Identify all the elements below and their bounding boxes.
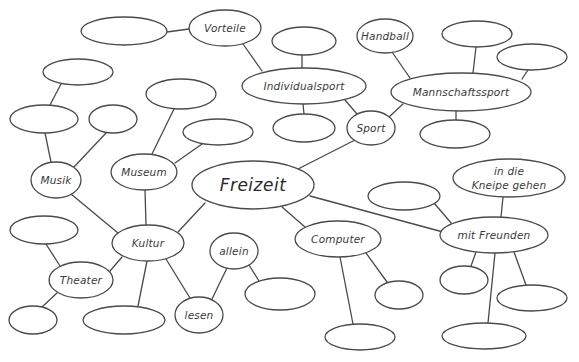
node-ellipse — [10, 216, 78, 244]
node-label: Freizeit — [220, 175, 288, 195]
node-ellipse — [83, 306, 165, 334]
node-freizeit: Freizeit — [192, 161, 314, 209]
edge-freunde-to-e_freunde_bot — [488, 253, 495, 323]
node-ellipse — [146, 79, 216, 109]
node-ellipse — [442, 21, 512, 47]
edge-individual-to-e_ind_bot — [303, 104, 304, 114]
edge-computer-to-e_comp_small — [366, 253, 387, 282]
empty-node-e_musik_left — [10, 105, 78, 133]
edge-kultur-to-e_kultur_bot — [138, 261, 147, 306]
node-label: Musik — [40, 174, 72, 186]
node-ellipse — [368, 182, 440, 210]
node-ellipse — [9, 306, 57, 334]
edge-musik-to-e_musik_left — [45, 133, 51, 162]
node-mannschaft: Mannschaftssport — [391, 73, 531, 111]
empty-node-e_ind_top — [272, 27, 336, 55]
edge-allein-to-e_allein — [249, 265, 259, 281]
node-label: Vorteile — [204, 22, 246, 34]
node-vorteile: Vorteile — [189, 10, 261, 46]
node-label: in die — [494, 165, 524, 177]
edge-kultur-to-lesen — [166, 259, 190, 298]
node-ellipse — [375, 281, 423, 309]
node-ellipse — [325, 324, 395, 350]
edge-theater-to-e_theater_bot — [42, 293, 57, 307]
node-ellipse — [272, 27, 336, 55]
node-ellipse — [81, 17, 167, 45]
node-ellipse — [497, 44, 567, 70]
node-label: Computer — [311, 233, 365, 245]
empty-node-e_mann_right — [497, 44, 567, 70]
node-label: allein — [219, 245, 249, 257]
node-ellipse — [420, 120, 490, 148]
mind-map-nodes: FreizeitSportIndividualsportVorteileMann… — [9, 10, 567, 350]
edge-museum-to-e_museum_right — [175, 144, 202, 163]
node-label: Handball — [361, 30, 409, 42]
empty-node-e_vorteile — [81, 17, 167, 45]
empty-node-e_freunde_small — [440, 266, 488, 294]
empty-node-e_ind_bot — [273, 114, 335, 142]
node-ellipse — [10, 105, 78, 133]
empty-node-e_musik_top — [43, 59, 113, 85]
node-ellipse — [43, 59, 113, 85]
edge-freunde-to-e_freunde_small — [471, 252, 476, 266]
mind-map-canvas: FreizeitSportIndividualsportVorteileMann… — [0, 0, 579, 362]
node-label: Museum — [121, 166, 167, 178]
node-ellipse — [89, 105, 137, 133]
node-label: Mannschaftssport — [413, 86, 510, 98]
edge-kultur-to-theater — [110, 257, 122, 271]
empty-node-e_allein — [245, 278, 315, 310]
node-ellipse — [442, 323, 526, 349]
node-sport: Sport — [347, 111, 395, 145]
edge-freunde-to-kneipe — [501, 197, 503, 217]
empty-node-e_museum_top — [146, 79, 216, 109]
edge-kultur-to-museum — [145, 190, 146, 225]
node-allein: allein — [210, 233, 258, 269]
edge-sport-to-individual — [345, 100, 357, 114]
empty-node-e_freunde_left — [368, 182, 440, 210]
node-ellipse — [497, 285, 567, 311]
node-label: Individualsport — [263, 80, 345, 92]
edge-mannschaft-to-handball — [392, 52, 410, 78]
empty-node-e_freunde_bot — [442, 323, 526, 349]
empty-node-e_musik_small — [89, 105, 137, 133]
edge-computer-to-e_comp_bot — [340, 257, 353, 324]
node-label: Theater — [60, 274, 103, 286]
empty-node-e_kultur_bot — [83, 306, 165, 334]
empty-node-e_theater_top — [10, 216, 78, 244]
edge-musik-to-e_musik_small — [74, 133, 106, 167]
node-computer: Computer — [295, 221, 381, 257]
empty-node-e_freunde_right — [497, 285, 567, 311]
empty-node-e_museum_right — [183, 119, 253, 145]
node-freunde: mit Freunden — [440, 217, 548, 253]
edge-freunde-to-e_freunde_right — [514, 252, 526, 285]
node-label: lesen — [185, 309, 214, 321]
edge-e_musik_left-to-e_musik_top — [50, 84, 61, 105]
edge-mannschaft-to-e_mann_top — [473, 47, 476, 73]
node-ellipse — [245, 278, 315, 310]
node-label-line2: Kneipe gehen — [472, 179, 547, 191]
node-individual: Individualsport — [242, 68, 366, 104]
node-musik: Musik — [31, 162, 81, 198]
node-museum: Museum — [111, 154, 177, 190]
empty-node-e_comp_bot — [325, 324, 395, 350]
node-ellipse — [273, 114, 335, 142]
node-handball: Handball — [357, 19, 413, 53]
edge-freizeit-to-computer — [282, 207, 305, 227]
empty-node-e_theater_bot — [9, 306, 57, 334]
edge-lesen-to-allein — [212, 268, 227, 299]
edge-sport-to-mannschaft — [389, 104, 403, 117]
empty-node-e_mann_bot — [420, 120, 490, 148]
edge-individual-to-vorteile — [243, 44, 262, 71]
node-ellipse — [183, 119, 253, 145]
node-ellipse — [440, 266, 488, 294]
node-label: Kultur — [132, 237, 165, 249]
edge-freunde-to-e_freunde_left — [434, 203, 452, 224]
edge-freizeit-to-kultur — [178, 203, 205, 232]
edge-freizeit-to-sport — [298, 140, 355, 169]
empty-node-e_mann_top — [442, 21, 512, 47]
edge-vorteile-to-e_vorteile — [167, 29, 189, 32]
edge-theater-to-e_theater_top — [46, 244, 60, 266]
edge-mannschaft-to-e_mann_right — [522, 70, 528, 79]
node-kneipe: in dieKneipe gehen — [453, 159, 565, 197]
empty-node-e_comp_small — [375, 281, 423, 309]
